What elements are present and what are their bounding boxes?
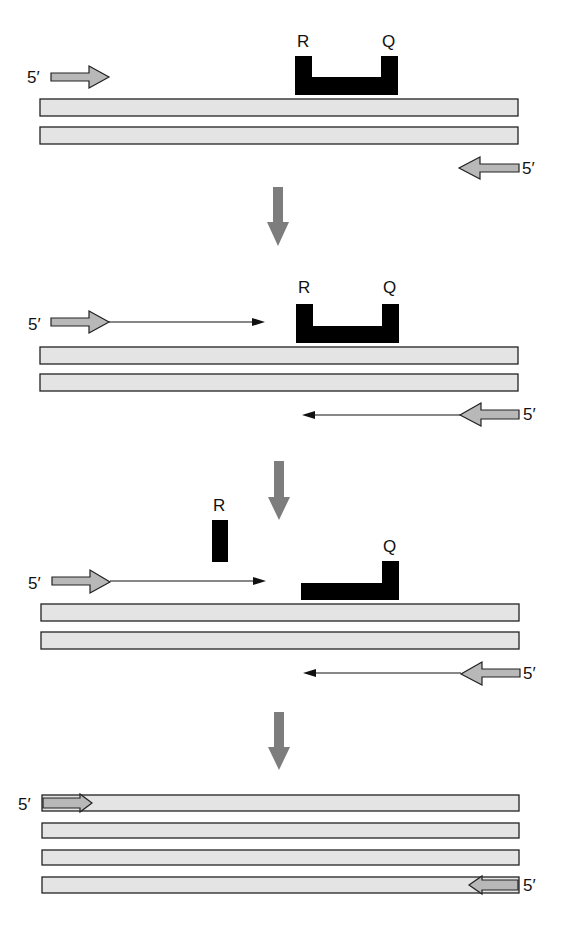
panel-cleavage	[41, 520, 520, 685]
reverse-extension-arrowhead	[303, 669, 316, 677]
quencher-fragment	[301, 561, 399, 600]
reverse-5prime-label: 5′	[523, 406, 536, 423]
step-arrow-down-2	[268, 461, 290, 520]
reverse-5prime-label: 5′	[523, 665, 536, 682]
step-arrow-down-1	[267, 187, 289, 246]
forward-primer-arrow	[51, 311, 109, 333]
reverse-extension-arrowhead	[302, 411, 315, 419]
intact-probe	[296, 304, 399, 343]
forward-5prime-label: 5′	[27, 69, 40, 86]
reverse-primer-arrow	[460, 403, 519, 426]
panel-annealing	[40, 56, 519, 179]
dna-strand-top	[40, 347, 518, 364]
forward-primer-arrow	[52, 570, 110, 593]
quencher-label: Q	[383, 279, 396, 296]
forward-5prime-label: 5′	[28, 575, 41, 592]
taqman-diagram: R Q 5′ 5′ R Q 5′ 5′ R Q 5′ 5′ 5′ 5′	[0, 0, 574, 930]
forward-5prime-label: 5′	[28, 316, 41, 333]
dna-strand-top	[40, 99, 518, 116]
dna-strand-1	[42, 795, 519, 811]
forward-extension-arrowhead	[253, 577, 266, 585]
diagram-canvas	[0, 0, 574, 930]
quencher-label: Q	[382, 33, 395, 50]
intact-probe	[295, 56, 398, 95]
released-reporter-fragment	[212, 520, 228, 562]
step-arrow-down-3	[268, 712, 290, 770]
dna-strand-4	[42, 877, 519, 893]
panel-products	[42, 794, 519, 894]
reverse-5prime-label: 5′	[523, 877, 536, 894]
panel-extension	[40, 304, 519, 426]
reporter-label: R	[297, 33, 309, 50]
reporter-label: R	[298, 279, 310, 296]
reporter-label: R	[213, 497, 225, 514]
forward-5prime-label: 5′	[18, 796, 31, 813]
forward-primer-arrow	[51, 66, 109, 88]
dna-strand-bottom	[40, 127, 518, 144]
reverse-primer-arrow	[459, 157, 519, 179]
dna-strand-2	[42, 823, 519, 838]
forward-extension-arrowhead	[252, 318, 265, 326]
reverse-primer-arrow	[461, 662, 520, 685]
dna-strand-bottom	[40, 374, 518, 391]
quencher-label: Q	[383, 538, 396, 555]
reverse-5prime-label: 5′	[522, 160, 535, 177]
dna-strand-top	[41, 604, 519, 621]
dna-strand-bottom	[41, 632, 519, 649]
dna-strand-3	[42, 850, 519, 865]
